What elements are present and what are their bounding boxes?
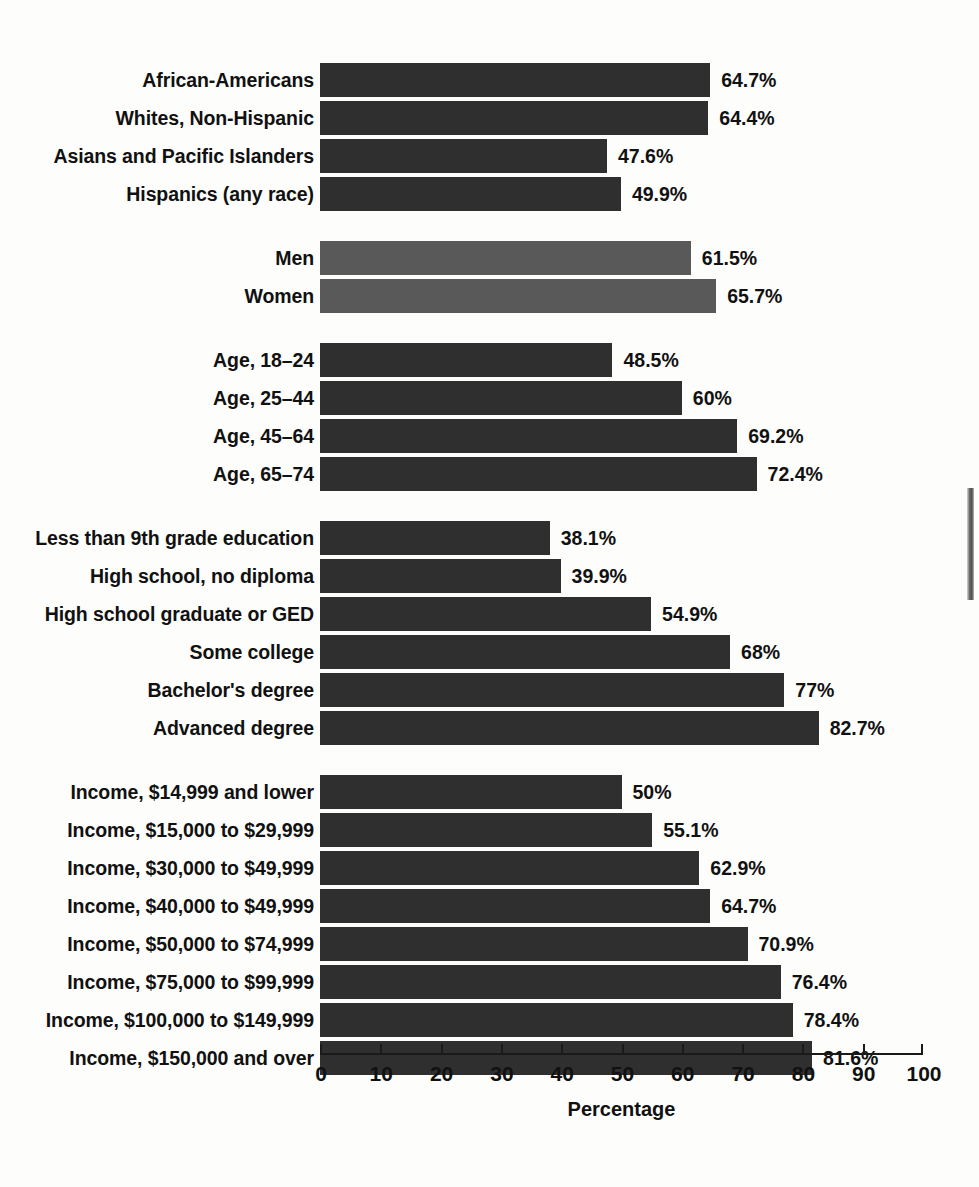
bar-value-label: 64.7% [721, 889, 776, 923]
x-axis-tick-label: 40 [532, 1062, 592, 1086]
bar [320, 635, 730, 669]
bar [320, 279, 716, 313]
bar-row: Income, $100,000 to $149,99978.4% [0, 1003, 979, 1037]
category-label: Less than 9th grade education [35, 521, 314, 555]
bar-value-label: 82.7% [830, 711, 885, 745]
bar-row: Age, 45–6469.2% [0, 419, 979, 453]
bar [320, 419, 737, 453]
category-label: Income, $15,000 to $29,999 [67, 813, 314, 847]
bar [320, 775, 622, 809]
bar [320, 711, 819, 745]
bar-value-label: 39.9% [572, 559, 627, 593]
x-axis-tick [501, 1044, 503, 1054]
category-label: Age, 45–64 [213, 419, 314, 453]
category-label: Advanced degree [153, 711, 314, 745]
bar-value-label: 49.9% [632, 177, 687, 211]
bar-row: Income, $75,000 to $99,99976.4% [0, 965, 979, 999]
bar [320, 343, 612, 377]
x-axis-tick [682, 1044, 684, 1054]
bar [320, 965, 781, 999]
x-axis-tick [742, 1044, 744, 1054]
x-axis-tick [622, 1044, 624, 1054]
category-label: African-Americans [142, 63, 314, 97]
bar [320, 63, 710, 97]
bar-value-label: 70.9% [759, 927, 814, 961]
bar-value-label: 54.9% [662, 597, 717, 631]
category-label: Age, 25–44 [213, 381, 314, 415]
category-label: Some college [189, 635, 314, 669]
page-edge-artifact [967, 488, 974, 600]
bar [320, 673, 784, 707]
bar [320, 177, 621, 211]
x-axis-tick-label: 80 [773, 1062, 833, 1086]
bar-row: Some college68% [0, 635, 979, 669]
category-label: Income, $40,000 to $49,999 [67, 889, 314, 923]
bar [320, 597, 651, 631]
category-label: Bachelor's degree [147, 673, 314, 707]
x-axis-tick [863, 1044, 865, 1054]
category-label: Whites, Non-Hispanic [116, 101, 314, 135]
bar [320, 559, 561, 593]
x-axis-tick-label: 90 [834, 1062, 894, 1086]
x-axis-tick-label: 10 [351, 1062, 411, 1086]
bar-value-label: 68% [741, 635, 780, 669]
bar [320, 101, 708, 135]
x-axis-tick [802, 1044, 804, 1054]
category-label: Income, $75,000 to $99,999 [67, 965, 314, 999]
category-label: Income, $30,000 to $49,999 [67, 851, 314, 885]
bar-value-label: 48.5% [623, 343, 678, 377]
bar-row: Age, 25–4460% [0, 381, 979, 415]
x-axis-tick [320, 1044, 322, 1054]
bar [320, 457, 757, 491]
bar-value-label: 50% [633, 775, 672, 809]
x-axis-tick-label: 70 [713, 1062, 773, 1086]
bar-row: Bachelor's degree77% [0, 673, 979, 707]
category-label: Income, $14,999 and lower [70, 775, 314, 809]
bar-row: High school, no diploma39.9% [0, 559, 979, 593]
x-axis-tick [441, 1044, 443, 1054]
bar [320, 139, 607, 173]
bar-row: Women65.7% [0, 279, 979, 313]
bar [320, 851, 699, 885]
bar [320, 813, 652, 847]
bar [320, 241, 691, 275]
category-label: Income, $100,000 to $149,999 [46, 1003, 314, 1037]
bar-chart: African-Americans64.7%Whites, Non-Hispan… [0, 0, 979, 1187]
bar-row: Income, $40,000 to $49,99964.7% [0, 889, 979, 923]
bar-row: High school graduate or GED54.9% [0, 597, 979, 631]
bar [320, 889, 710, 923]
x-axis-title: Percentage [320, 1098, 923, 1121]
x-axis-tick-label: 20 [412, 1062, 472, 1086]
bar [320, 381, 682, 415]
x-axis-tick [380, 1044, 382, 1054]
x-axis [320, 1053, 923, 1055]
bar-row: Hispanics (any race)49.9% [0, 177, 979, 211]
bar-value-label: 47.6% [618, 139, 673, 173]
category-label: Age, 65–74 [213, 457, 314, 491]
x-axis-tick-label: 30 [472, 1062, 532, 1086]
category-label: Age, 18–24 [213, 343, 314, 377]
bar-value-label: 72.4% [768, 457, 823, 491]
bar-value-label: 65.7% [727, 279, 782, 313]
category-label: Men [275, 241, 314, 275]
bar-value-label: 64.7% [721, 63, 776, 97]
x-axis-tick-label: 50 [593, 1062, 653, 1086]
bar-value-label: 61.5% [702, 241, 757, 275]
bar-value-label: 38.1% [561, 521, 616, 555]
bar-row: Advanced degree82.7% [0, 711, 979, 745]
category-label: Asians and Pacific Islanders [53, 139, 314, 173]
bar-row: Income, $30,000 to $49,99962.9% [0, 851, 979, 885]
bar-value-label: 78.4% [804, 1003, 859, 1037]
bar-row: African-Americans64.7% [0, 63, 979, 97]
bar-row: Income, $14,999 and lower50% [0, 775, 979, 809]
bar-row: Less than 9th grade education38.1% [0, 521, 979, 555]
x-axis-tick [921, 1044, 923, 1054]
bar-row: Men61.5% [0, 241, 979, 275]
bar [320, 521, 550, 555]
bar-row: Age, 18–2448.5% [0, 343, 979, 377]
bar-value-label: 55.1% [663, 813, 718, 847]
bar-value-label: 60% [693, 381, 732, 415]
category-label: High school graduate or GED [45, 597, 314, 631]
bar-value-label: 64.4% [719, 101, 774, 135]
category-label: Hispanics (any race) [126, 177, 314, 211]
